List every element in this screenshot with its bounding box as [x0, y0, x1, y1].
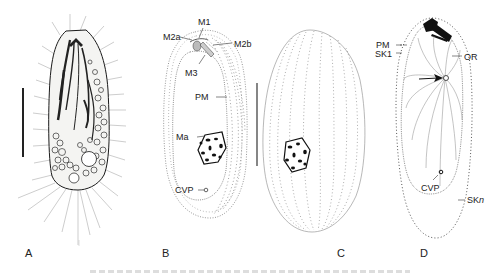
- paroral-membrane-region: [173, 51, 228, 200]
- label-m2b: M2b: [234, 39, 252, 49]
- label-skn-sub: n: [479, 195, 484, 205]
- panel-label-d: D: [420, 247, 428, 259]
- label-skn-main: SK: [467, 195, 479, 205]
- label-m1: M1: [198, 17, 211, 27]
- label-pm-b: PM: [195, 92, 209, 102]
- panel-a: [18, 14, 126, 245]
- label-cvp-d: CVP: [421, 183, 440, 193]
- oral-ring: [444, 76, 449, 81]
- cell-outline-d-inner: [401, 26, 463, 194]
- panel-c: [257, 30, 365, 232]
- cell-outline-c: [263, 30, 365, 232]
- figure-caption-cropped: [90, 268, 410, 274]
- panel-label-c: C: [337, 247, 345, 259]
- label-m2a: M2a: [163, 32, 181, 42]
- label-or: OR: [464, 52, 478, 62]
- panel-d: PM SK1 OR CVP SKn: [375, 18, 484, 238]
- panel-label-b: B: [162, 247, 169, 259]
- panel-b: M1 M2a M2b M3 PM Ma CVP: [163, 17, 252, 218]
- contractile-vacuole-large: [82, 152, 97, 167]
- label-sk1: SK1: [375, 49, 392, 59]
- label-m3: M3: [185, 68, 198, 78]
- contractile-vacuole-small: [69, 173, 79, 183]
- panel-label-a: A: [25, 247, 33, 259]
- label-skn: SKn: [467, 195, 484, 205]
- figure-canvas: M1 M2a M2b M3 PM Ma CVP: [0, 0, 501, 274]
- label-cvp-b: CVP: [175, 185, 194, 195]
- label-ma: Ma: [176, 132, 189, 142]
- macronucleus-c: [284, 138, 310, 172]
